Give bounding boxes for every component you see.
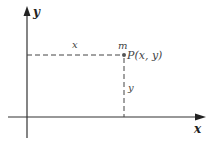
x-axis: [8, 114, 206, 121]
x-axis-arrow-icon: [195, 114, 206, 121]
y-axis-label: y: [32, 5, 41, 19]
y-axis-arrow-icon: [24, 6, 31, 16]
point-p-marker: [122, 53, 126, 57]
point-p-label: P(x, y): [126, 49, 162, 62]
y-axis: [24, 6, 31, 138]
x-axis-label: x: [193, 122, 202, 136]
coordinate-diagram: y x x y m P(x, y): [0, 0, 218, 142]
horizontal-guide-label: x: [72, 39, 78, 50]
vertical-guide-label: y: [127, 82, 134, 93]
